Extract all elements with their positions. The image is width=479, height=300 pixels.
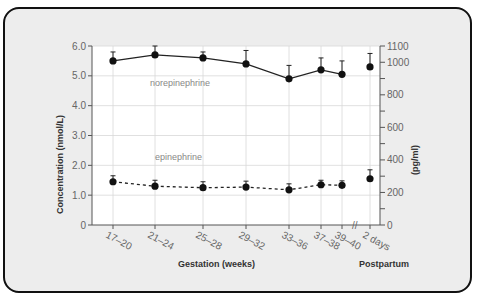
epinephrine-point	[151, 183, 158, 190]
y-tick-label: 2.0	[72, 160, 86, 171]
x-tick-label: 29–32	[237, 229, 267, 252]
y-tick-label: 4.0	[72, 100, 86, 111]
x-tick-label: 33–36	[280, 229, 310, 252]
y-right-tick-label: 600	[387, 122, 404, 133]
norepinephrine-label: norepinephrine	[150, 78, 210, 88]
epinephrine-point	[242, 184, 249, 191]
x-axis-label: Gestation (weeks)	[178, 259, 255, 269]
y-tick-label: 3.0	[72, 130, 86, 141]
norepinephrine-point	[285, 75, 292, 82]
y-right-tick-label: 1000	[387, 57, 410, 68]
x-tick-label: 25–28	[194, 229, 224, 252]
norepinephrine-point	[242, 60, 249, 67]
postpartum-label: Postpartum	[359, 259, 409, 269]
epinephrine-point	[199, 184, 206, 191]
epinephrine-label: epinephrine	[155, 152, 202, 162]
x-tick-label: 17–20	[104, 229, 134, 252]
y-tick-label: 0	[80, 220, 86, 231]
norepinephrine-point	[199, 54, 206, 61]
epinephrine-point	[338, 182, 345, 189]
x-tick-label: 21–24	[146, 229, 176, 252]
y-right-tick-label: 400	[387, 154, 404, 165]
y-axis-right-label: (pg/ml)	[410, 145, 420, 175]
y-right-tick-label: 1100	[387, 41, 409, 52]
x-tick-label: 2 days	[361, 229, 392, 253]
line-chart: 01.02.03.04.05.06.017–2021–2425–2829–323…	[0, 0, 479, 300]
norepinephrine-point	[109, 57, 116, 64]
norepinephrine-point	[317, 66, 324, 73]
y-right-tick-label: 200	[387, 187, 404, 198]
epinephrine-point	[109, 178, 116, 185]
y-right-tick-label: 0	[387, 220, 393, 231]
axis-break-mark: //	[352, 220, 358, 231]
y-axis-label: Concentration (nmol/L)	[55, 115, 65, 214]
y-tick-label: 1.0	[72, 190, 86, 201]
y-tick-label: 5.0	[72, 70, 86, 81]
epinephrine-point	[366, 175, 373, 182]
epinephrine-point	[317, 181, 324, 188]
norepinephrine-point	[338, 71, 345, 78]
norepinephrine-point	[151, 51, 158, 58]
norepinephrine-point	[366, 63, 373, 70]
y-tick-label: 6.0	[72, 41, 86, 52]
y-right-tick-label: 800	[387, 89, 404, 100]
epinephrine-point	[285, 186, 292, 193]
